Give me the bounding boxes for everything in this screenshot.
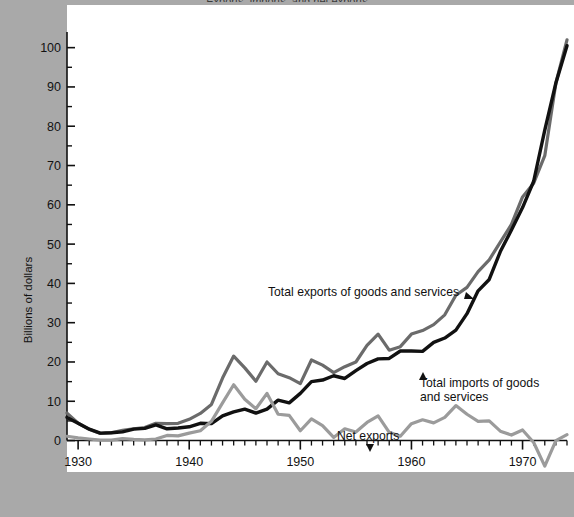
y-axis-tick-label: 0 (54, 434, 61, 448)
chart-figure: Exports, imports, and net exports 010203… (0, 0, 574, 517)
series-line-imports (67, 46, 567, 433)
net-exports-leader-arrow-icon (366, 444, 374, 452)
chart-svg: 0102030405060708090100 19301940195019601… (0, 0, 574, 517)
series-line-exports (67, 40, 567, 434)
annotation-net-exports-label: Net exports (337, 429, 399, 443)
y-axis-tick-label: 10 (47, 395, 61, 409)
annotation-exports-label: Total exports of goods and services (268, 285, 459, 299)
x-axis-tick-label: 1950 (286, 455, 314, 469)
y-axis-tick-label: 100 (40, 41, 61, 55)
y-axis-tick-label: 40 (47, 277, 61, 291)
y-axis-tick-label: 70 (47, 159, 61, 173)
exports-leader-arrow-icon (464, 292, 474, 299)
x-axis: 19301940195019601970 (64, 441, 567, 469)
y-axis: 0102030405060708090100 (40, 32, 75, 448)
x-axis-tick-label: 1940 (175, 455, 203, 469)
y-axis-tick-label: 50 (47, 238, 61, 252)
annotation-imports-label-line2: and services (420, 390, 488, 404)
x-axis-tick-label: 1970 (509, 455, 537, 469)
y-axis-tick-label: 90 (47, 80, 61, 94)
y-axis-tick-label: 30 (47, 316, 61, 330)
y-axis-tick-label: 60 (47, 198, 61, 212)
x-axis-tick-label: 1960 (398, 455, 426, 469)
annotation-imports-label-line1: Total imports of goods (420, 376, 539, 390)
y-axis-tick-label: 80 (47, 120, 61, 134)
x-axis-tick-label: 1930 (64, 455, 92, 469)
series-line-net-exports (67, 385, 567, 466)
y-axis-tick-label: 20 (47, 355, 61, 369)
y-axis-title: Billions of dollars (22, 257, 34, 344)
data-series-group (67, 40, 567, 466)
